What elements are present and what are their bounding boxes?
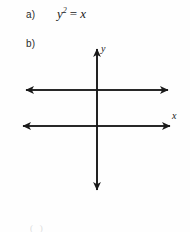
equation-right-side: x (80, 6, 86, 21)
coordinate-axes-figure: y x (0, 40, 190, 205)
equation-y-squared-equals-x: y2=x (57, 6, 86, 22)
equation-operator: = (70, 6, 77, 21)
x-axis-label: x (172, 110, 176, 121)
equation-exponent: 2 (63, 6, 67, 15)
item-label-a: a) (26, 9, 35, 20)
worksheet-page: a) y2=x b) (0, 0, 190, 232)
axes-svg (0, 40, 190, 205)
footer-clipped-text: ( ) (30, 223, 180, 232)
y-axis-label: y (101, 43, 105, 54)
